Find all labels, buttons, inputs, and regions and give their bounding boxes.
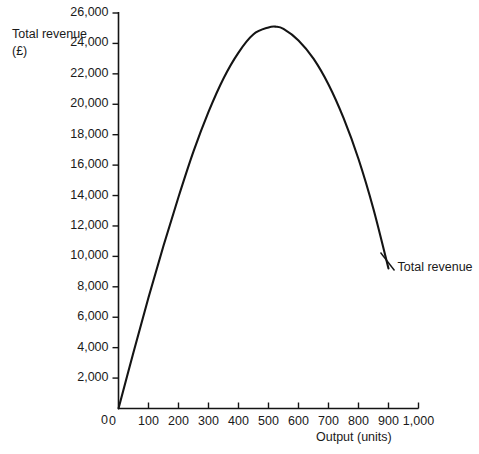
y-tick-label: 2,000 (30, 370, 109, 384)
x-axis-tick-marks (149, 403, 419, 409)
y-tick-label: 24,000 (30, 35, 109, 49)
y-tick-label: 18,000 (30, 127, 109, 141)
y-tick-label: 6,000 (30, 309, 109, 323)
y-tick-label: 22,000 (30, 66, 109, 80)
y-tick-label: 26,000 (30, 5, 109, 19)
y-tick-label: 8,000 (30, 279, 109, 293)
y-axis-tick-marks (113, 13, 119, 378)
y-tick-label: 14,000 (30, 188, 109, 202)
y-tick-label: 16,000 (30, 157, 109, 171)
y-tick-label: 10,000 (30, 248, 109, 262)
y-tick-label: 12,000 (30, 218, 109, 232)
y-tick-label: 4,000 (30, 340, 109, 354)
total-revenue-chart: Total revenue (£) Output (units) Total r… (0, 0, 479, 454)
x-tick-label: 1,000 (395, 414, 443, 428)
total-revenue-curve (119, 26, 389, 408)
y-tick-label: 20,000 (30, 96, 109, 110)
